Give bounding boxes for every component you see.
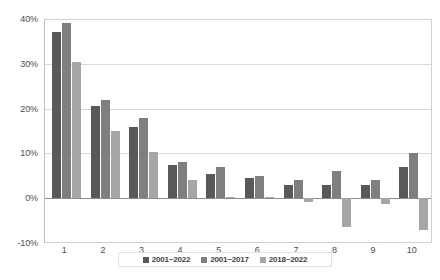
- bar: [419, 198, 428, 229]
- y-tick-label: -10%: [0, 238, 38, 248]
- bar-group: [392, 20, 431, 242]
- bar: [322, 185, 331, 198]
- bar: [265, 197, 274, 198]
- y-tick-label: 20%: [0, 104, 38, 114]
- bar: [294, 180, 303, 198]
- bar: [284, 185, 293, 198]
- y-tick-label: 0%: [0, 193, 38, 203]
- bar: [226, 197, 235, 198]
- bar-group: [122, 20, 161, 242]
- bar-chart: 40%30%20%10%0%-10% 12345678910 2001~2022…: [0, 0, 440, 280]
- bar: [52, 32, 61, 198]
- bar: [129, 127, 138, 199]
- bar: [101, 100, 110, 199]
- legend-label: 2001~2022: [152, 255, 190, 264]
- x-tick-label: 2: [84, 244, 122, 256]
- bar: [409, 153, 418, 198]
- bar-group: [84, 20, 123, 242]
- bar: [342, 198, 351, 227]
- bar: [245, 178, 254, 198]
- y-axis-tick-labels: 40%30%20%10%0%-10%: [0, 0, 40, 280]
- bar: [216, 167, 225, 198]
- y-tick-label: 30%: [0, 59, 38, 69]
- bar: [304, 198, 313, 202]
- y-tick-label: 40%: [0, 14, 38, 24]
- bar-group: [354, 20, 393, 242]
- bar: [332, 171, 341, 198]
- legend-item[interactable]: 2018~2022: [260, 255, 307, 264]
- bar: [381, 198, 390, 203]
- legend-label: 2018~2022: [269, 255, 307, 264]
- x-tick-label: 1: [45, 244, 83, 256]
- bar: [139, 118, 148, 199]
- bar: [188, 180, 197, 198]
- bar: [206, 174, 215, 199]
- bar: [255, 176, 264, 198]
- bar: [149, 152, 158, 198]
- x-tick-label: 9: [354, 244, 392, 256]
- bar-group: [161, 20, 200, 242]
- bar: [72, 62, 81, 199]
- plot-area: [45, 20, 431, 242]
- bar-group: [199, 20, 238, 242]
- bar: [168, 165, 177, 199]
- bar: [178, 162, 187, 198]
- legend-item[interactable]: 2001~2017: [201, 255, 248, 264]
- bar-group: [277, 20, 316, 242]
- bar: [62, 23, 71, 198]
- bar-group: [315, 20, 354, 242]
- legend-swatch-icon: [143, 257, 149, 263]
- legend-label: 2001~2017: [210, 255, 248, 264]
- legend-swatch-icon: [201, 257, 207, 263]
- chart-legend: 2001~20222001~20172018~2022: [118, 252, 332, 267]
- bar-group: [45, 20, 84, 242]
- bar-group: [238, 20, 277, 242]
- x-tick-label: 10: [393, 244, 431, 256]
- y-tick-label: 10%: [0, 148, 38, 158]
- legend-item[interactable]: 2001~2022: [143, 255, 190, 264]
- bar: [91, 106, 100, 198]
- bar: [371, 180, 380, 198]
- bar: [361, 185, 370, 198]
- legend-swatch-icon: [260, 257, 266, 263]
- bar: [111, 131, 120, 198]
- bar: [399, 167, 408, 198]
